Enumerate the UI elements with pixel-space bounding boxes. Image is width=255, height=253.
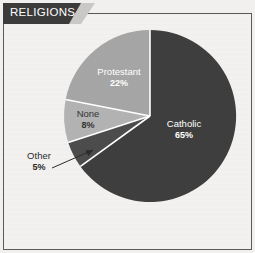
slice-label-other: Other 5%: [12, 150, 66, 173]
slice-label-protestant-name: Protestant: [80, 66, 158, 78]
slice-label-none-name: None: [62, 108, 114, 120]
chart-area: Catholic 65% Protestant 22% None 8% Othe…: [0, 0, 255, 253]
slice-label-none: None 8%: [62, 108, 114, 131]
slice-label-protestant-pct: 22%: [80, 78, 158, 89]
slice-label-catholic: Catholic 65%: [148, 118, 220, 141]
slice-label-other-pct: 5%: [12, 162, 66, 173]
slice-label-protestant: Protestant 22%: [80, 66, 158, 89]
slice-label-other-name: Other: [12, 150, 66, 162]
slice-label-none-pct: 8%: [62, 120, 114, 131]
slice-label-catholic-pct: 65%: [148, 130, 220, 141]
religions-pie-figure: RELIGIONS: [0, 0, 255, 253]
slice-label-catholic-name: Catholic: [148, 118, 220, 130]
